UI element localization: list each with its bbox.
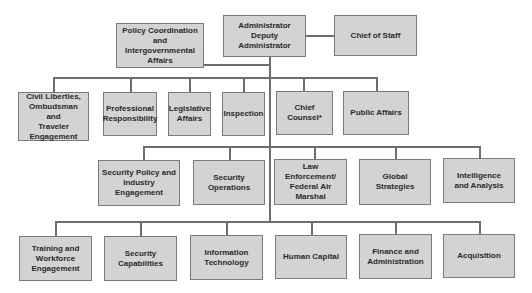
box-policy-coordination: Policy Coordination and Intergovernmenta… — [116, 23, 204, 68]
box-civil-liberties: Civil Liberties, Ombudsman and Traveler … — [18, 92, 89, 141]
row1-drop — [303, 77, 305, 91]
box-security-policy: Security Policy and Industry Engagement — [98, 160, 180, 206]
box-law-enforcement: Law Enforcement/ Federal Air Marshal — [274, 159, 347, 205]
box-global-strategies: Global Strategies — [359, 159, 431, 205]
row3-drop — [55, 221, 57, 236]
row2-drop — [395, 146, 397, 159]
box-legislative-affairs: Legislative Affairs — [168, 92, 211, 136]
row2-drop — [143, 146, 145, 160]
box-acquisition: Acquisition — [443, 234, 515, 278]
row2-drop — [229, 146, 231, 160]
box-intelligence-analysis: Intelligence and Analysis — [443, 158, 515, 203]
box-information-technology: Information Technology — [190, 235, 263, 280]
box-chief-of-staff: Chief of Staff — [334, 15, 417, 56]
box-security-capabilities: Security Capabilities — [104, 236, 177, 281]
row2-drop — [479, 146, 481, 158]
box-administrator: Administrator Deputy Administrator — [223, 15, 306, 57]
box-finance-administration: Finance and Administration — [359, 234, 432, 279]
policy-connector — [204, 64, 270, 66]
row3-drop — [140, 221, 142, 236]
row3-bus — [55, 221, 480, 223]
row1-bus — [53, 77, 376, 79]
box-chief-counsel: Chief Counsel* — [276, 91, 333, 135]
box-professional-responsibility: Professional Responsibility — [103, 92, 157, 136]
box-public-affairs: Public Affairs — [343, 91, 409, 135]
row3-drop — [395, 221, 397, 234]
box-training-workforce: Training and Workforce Engagement — [19, 236, 92, 281]
row2-drop — [314, 146, 316, 159]
row1-drop — [376, 77, 378, 91]
row1-drop — [130, 77, 132, 92]
row3-drop — [479, 221, 481, 234]
row1-drop — [53, 77, 55, 92]
row3-drop — [226, 221, 228, 235]
row1-drop — [189, 77, 191, 92]
admin-to-chief-of-staff-connector — [306, 35, 334, 37]
box-inspection: Inspection — [222, 92, 265, 136]
box-human-capital: Human Capital — [275, 235, 347, 279]
org-chart: Policy Coordination and Intergovernmenta… — [0, 0, 532, 293]
main-trunk — [269, 57, 271, 222]
row3-drop — [311, 221, 313, 235]
row2-bus — [143, 146, 479, 148]
box-security-operations: Security Operations — [193, 160, 265, 205]
row1-drop — [243, 77, 245, 92]
